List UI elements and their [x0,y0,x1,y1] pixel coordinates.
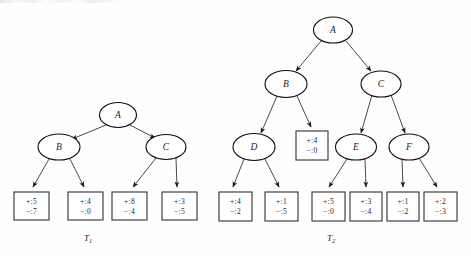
leaf-e-left[interactable]: +:5 −:0 [312,192,345,221]
leaf-minus-value: −:5 [276,207,287,216]
leaf-minus-value: −:3 [435,207,446,216]
edge-c-leaf2 [176,158,177,187]
edge-a-b [296,41,321,71]
edge-a-b [72,125,106,139]
edge-b-d [261,96,277,133]
edge-b-leaf [297,96,311,127]
leaf-d-left[interactable]: +:4 −:2 [219,192,252,221]
leaf-minus-value: −:2 [230,207,241,216]
edge-b-leaf1 [33,159,49,187]
node-b-label: B [56,142,62,152]
node-f-label: F [405,142,412,152]
leaf-plus-value: +:3 [174,197,185,206]
tree-t1: A B C +:5 −:7 [14,103,197,245]
leaf-minus-value: −:0 [307,146,318,155]
leaf-plus-value: +:1 [398,197,409,206]
node-a-label: A [114,110,121,120]
node-c[interactable]: C [361,71,401,97]
tree-caption-t1: T1 [84,233,92,244]
leaf-minus-value: −:7 [26,207,37,216]
leaf-plus-value: +:2 [435,197,446,206]
node-b[interactable]: B [38,134,80,160]
node-e[interactable]: E [336,134,377,160]
leaf-minus-value: −:4 [124,207,135,216]
leaf-plus-value: +:4 [307,136,318,145]
leaf-f-right[interactable]: +:2 −:3 [424,192,457,221]
edge-f-leaf2 [419,158,437,187]
node-d[interactable]: D [233,134,275,161]
edge-a-c [346,41,371,71]
tree-t2: A B C D E [219,17,457,244]
leaf-b-left[interactable]: +:5 −:7 [14,192,49,220]
t1-nodes: A B C [38,103,186,161]
leaf-minus-value: −:2 [398,207,409,216]
tree-caption-t1-sub: 1 [89,237,92,244]
node-a[interactable]: A [314,17,353,43]
tree-caption-t2-sub: 2 [332,237,336,244]
leaf-plus-value: +:5 [26,197,37,206]
edge-f-leaf1 [402,159,403,187]
leaf-minus-value: −:0 [323,207,334,216]
leaf-plus-value: +:3 [361,197,372,206]
edge-b-leaf2 [70,159,84,187]
leaf-b-right[interactable]: +:4 −:0 [296,131,328,160]
tree-diagram: A B C +:5 −:7 [0,0,471,256]
edge-d-leaf2 [265,159,279,187]
node-d-label: D [250,142,258,152]
leaf-plus-value: +:5 [323,197,334,206]
edge-c-f [391,95,405,133]
node-b-label: B [283,79,289,89]
leaf-plus-value: +:4 [230,197,241,206]
node-a[interactable]: A [100,103,137,128]
edge-e-leaf1 [329,159,347,187]
edge-c-e [361,95,372,133]
node-e-label: E [352,142,359,152]
leaf-c-left[interactable]: +:8 −:4 [112,192,147,220]
edge-a-c [130,125,155,138]
leaf-c-right[interactable]: +:3 −:5 [162,192,197,220]
leaf-e-right[interactable]: +:3 −:4 [350,192,382,221]
leaf-plus-value: +:8 [124,197,135,206]
leaf-f-left[interactable]: +:1 −:2 [387,192,419,221]
leaf-minus-value: −:5 [174,207,185,216]
edge-c-leaf1 [133,158,156,187]
leaf-minus-value: −:4 [361,207,372,216]
edge-e-leaf2 [365,159,366,187]
leaf-b-right[interactable]: +:4 −:0 [68,192,103,220]
leaf-plus-value: +:4 [80,197,91,206]
node-b[interactable]: B [265,71,307,98]
leaf-plus-value: +:1 [276,197,287,206]
edge-d-leaf1 [233,159,244,187]
node-c-label: C [163,142,170,152]
node-a-label: A [329,25,336,35]
node-f[interactable]: F [389,134,429,160]
leaf-minus-value: −:0 [80,207,91,216]
tree-caption-t2: T2 [327,233,336,244]
t2-nodes: A B C D E [233,17,429,161]
t1-leaves: +:5 −:7 +:4 −:0 +:8 −:4 +:3 −:5 [14,192,197,220]
node-c-label: C [378,79,385,89]
leaf-d-right[interactable]: +:1 −:5 [265,192,298,221]
node-c[interactable]: C [146,135,186,160]
figure-canvas: A B C +:5 −:7 [0,0,471,256]
t2-edges [233,41,437,187]
